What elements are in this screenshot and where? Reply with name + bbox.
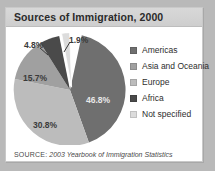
pie-label-americas: 46.8%: [86, 95, 110, 105]
legend-swatch-icon: [130, 95, 137, 102]
legend-item-americas: Americas: [130, 42, 202, 58]
legend-swatch-icon: [130, 63, 137, 70]
pie-label-asia-and-oceania: 15.7%: [23, 73, 47, 83]
page-title: Sources of Immigration, 2000: [14, 11, 163, 23]
legend-label: Asia and Oceania: [142, 61, 209, 71]
pie-label-europe: 30.8%: [33, 120, 57, 130]
chart-title-bar: Sources of Immigration, 2000: [6, 8, 202, 27]
chart-plot-area: 46.8% 30.8% 15.7% 4.8% 1.9% Americas Asi…: [6, 27, 202, 163]
chart-source-note: SOURCE: 2003 Yearbook of Immigration Sta…: [14, 151, 172, 158]
legend-item-asia-and-oceania: Asia and Oceania: [130, 58, 202, 74]
pie-chart: 46.8% 30.8% 15.7% 4.8% 1.9%: [12, 33, 128, 145]
legend-label: Not specified: [142, 109, 191, 119]
legend-item-africa: Africa: [130, 90, 202, 106]
legend-label: Americas: [142, 45, 177, 55]
pie-label-africa: 4.8%: [24, 40, 43, 50]
legend-label: Europe: [142, 77, 169, 87]
legend-item-europe: Europe: [130, 74, 202, 90]
legend-swatch-icon: [130, 47, 137, 54]
chart-card: Sources of Immigration, 2000: [5, 7, 203, 162]
source-text: 2003 Yearbook of Immigration Statistics: [49, 151, 172, 158]
legend-label: Africa: [142, 93, 164, 103]
chart-screenshot: Sources of Immigration, 2000: [0, 0, 215, 171]
source-label: SOURCE:: [14, 151, 47, 158]
pie-label-not-specified: 1.9%: [69, 35, 88, 45]
legend-swatch-icon: [130, 79, 137, 86]
legend-item-not-specified: Not specified: [130, 106, 202, 122]
legend-swatch-icon: [130, 111, 137, 118]
chart-legend: Americas Asia and Oceania Europe Africa …: [130, 42, 202, 122]
